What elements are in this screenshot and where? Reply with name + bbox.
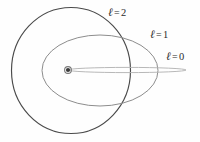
orbit-path-l1 [42, 35, 158, 106]
ell-value-l2: 2 [121, 7, 127, 18]
equals-sign-l2: = [113, 7, 121, 18]
orbit-canvas [0, 0, 200, 142]
equals-sign-l1: = [155, 29, 163, 40]
equals-sign-l0: = [171, 51, 179, 62]
orbit-paths [12, 8, 187, 134]
orbit-label-l0: ℓ=0 [166, 51, 185, 63]
nucleus-marker [65, 67, 72, 74]
orbit-label-l1: ℓ=1 [150, 29, 169, 41]
nucleus-dot-icon [66, 68, 70, 72]
orbit-label-l2: ℓ=2 [108, 7, 127, 19]
orbit-diagram-figure: ℓ=2 ℓ=1 ℓ=0 [0, 0, 200, 142]
ell-value-l1: 1 [163, 29, 169, 40]
orbit-path-l0 [68, 67, 186, 72]
ell-value-l0: 0 [179, 51, 185, 62]
